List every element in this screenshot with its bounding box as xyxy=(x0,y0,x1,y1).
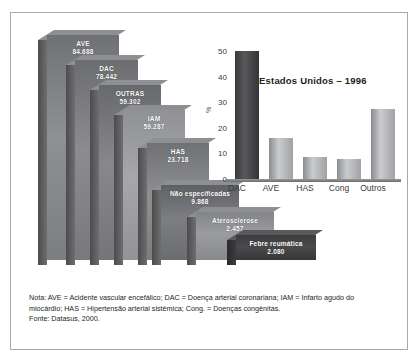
bar-side-face xyxy=(66,65,75,265)
note-source: Fonte: Datasus, 2000. xyxy=(29,314,393,325)
y-tick-10: 10 xyxy=(218,149,227,158)
stair-bar-label: IAM 59.287 xyxy=(123,115,185,131)
x-axis-baseline xyxy=(225,179,401,182)
y-tick-20: 20 xyxy=(218,123,227,132)
inset-bar-dac xyxy=(235,51,259,179)
bar-name: OUTRAS xyxy=(116,90,145,97)
inset-bar-has xyxy=(303,157,327,179)
bar-name: AVE xyxy=(76,40,89,47)
bar-value: 59.287 xyxy=(123,123,185,131)
bar-side-face xyxy=(227,240,236,265)
bar-name: DAC xyxy=(99,65,114,72)
bar-name: Febre reumática xyxy=(249,240,302,247)
bar-side-face xyxy=(187,217,196,265)
y-axis-label: % xyxy=(205,107,212,113)
figure-frame: AVE 84.688 DAC 78.442 OUTRAS 59.302 xyxy=(10,12,408,350)
bar-value: 2.080 xyxy=(236,248,316,256)
y-tick-30: 30 xyxy=(218,98,227,107)
inset-bar-cong xyxy=(337,159,361,179)
inset-bar-ave xyxy=(269,138,293,179)
stair-bar-label: DAC 78.442 xyxy=(75,65,138,81)
us-inset-chart: Estados Unidos – 1996 % 50 40 30 20 10 0… xyxy=(207,47,403,202)
x-label-outros: Outros xyxy=(353,183,393,193)
bar-side-face xyxy=(90,90,99,265)
y-tick-50: 50 xyxy=(218,47,227,56)
bar-side-face xyxy=(152,190,161,265)
stair-bar-label: AVE 84.688 xyxy=(47,40,119,56)
bar-name: Aterosclerose xyxy=(212,217,258,224)
stair-bar-febre-reumatica: Febre reumática 2.080 xyxy=(236,235,316,260)
bar-name: HAS xyxy=(171,148,185,155)
bar-side-face xyxy=(114,115,123,265)
stair-bar-label: Febre reumática 2.080 xyxy=(236,240,316,256)
bar-name: IAM xyxy=(148,115,161,122)
note-line-1: Nota: AVE = Acidente vascular encefálico… xyxy=(29,293,393,304)
inset-plot-area: 50 40 30 20 10 0 xyxy=(231,51,399,179)
note-line-2: miocárdio; HAS = Hipertensão arterial si… xyxy=(29,304,393,315)
y-tick-40: 40 xyxy=(218,72,227,81)
figure-note: Nota: AVE = Acidente vascular encefálico… xyxy=(29,293,393,325)
stair-bar-label: OUTRAS 59.302 xyxy=(99,90,161,106)
bar-side-face xyxy=(38,40,47,265)
stair-bar-label: HAS 23.718 xyxy=(147,148,209,164)
inset-bar-outros xyxy=(371,109,395,179)
bar-side-face xyxy=(138,148,147,265)
bar-value: 23.718 xyxy=(147,156,209,164)
